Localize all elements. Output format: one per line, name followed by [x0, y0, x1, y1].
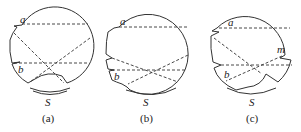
panel-b-label-a: a	[120, 15, 126, 27]
panel-c-label-a: a	[228, 16, 234, 28]
panel-b-label-s: S	[143, 96, 149, 108]
panel-c-label-b: b	[224, 68, 230, 80]
panel-c-ray-cross-2	[226, 56, 282, 81]
panel-a-source-arc	[30, 88, 70, 92]
panel-c-ray-cross-1	[214, 38, 262, 74]
panel-b-outline	[106, 14, 188, 94]
panel-a-label-s: S	[45, 96, 51, 108]
figure: a b S (a) a b S (b) a m b S (c)	[0, 0, 301, 132]
panel-b-label-b: b	[114, 70, 120, 82]
panel-a: a b S (a)	[10, 7, 94, 125]
panel-b-caption: (b)	[140, 112, 153, 125]
panel-a-ray-cross-1	[14, 33, 64, 83]
panel-c-caption: (c)	[246, 112, 259, 125]
panel-a-label-a: a	[20, 13, 26, 25]
panel-c-label-s: S	[249, 96, 255, 108]
panel-a-label-b: b	[18, 63, 24, 75]
panel-c: a m b S (c)	[211, 16, 292, 125]
panel-a-caption: (a)	[42, 112, 55, 125]
panel-c-label-m: m	[277, 43, 285, 55]
panel-b: a b S (b)	[106, 14, 188, 125]
